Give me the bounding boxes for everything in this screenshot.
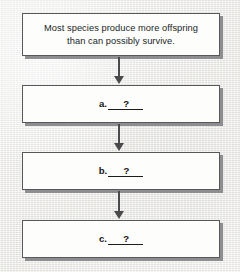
blank-letter-a: a. — [99, 98, 107, 109]
blank-rule-b: ? — [108, 165, 143, 177]
blank-box-b: b. ? — [22, 152, 220, 190]
statement-box: Most species produce more offspring than… — [22, 13, 220, 56]
arrow-shaft — [118, 124, 120, 144]
arrow-shaft — [118, 191, 120, 212]
blank-label-a: a. ? — [99, 98, 143, 110]
blank-label-b: b. ? — [99, 165, 144, 177]
arrow-head-icon — [114, 143, 124, 151]
arrow-head-icon — [114, 211, 124, 219]
blank-rule-c: ? — [108, 233, 143, 245]
blank-label-c: c. ? — [99, 233, 143, 245]
blank-box-c: c. ? — [22, 220, 220, 258]
arrow-1 — [112, 57, 126, 84]
arrow-2 — [112, 124, 126, 151]
flowchart-diagram: Most species produce more offspring than… — [0, 0, 240, 272]
statement-text: Most species produce more offspring than… — [38, 22, 204, 46]
blank-rule-a: ? — [108, 98, 143, 110]
blank-letter-b: b. — [99, 165, 108, 176]
blank-box-a: a. ? — [22, 85, 220, 123]
arrow-head-icon — [114, 76, 124, 84]
arrow-3 — [112, 191, 126, 219]
arrow-shaft — [118, 57, 120, 77]
blank-letter-c: c. — [99, 233, 107, 244]
